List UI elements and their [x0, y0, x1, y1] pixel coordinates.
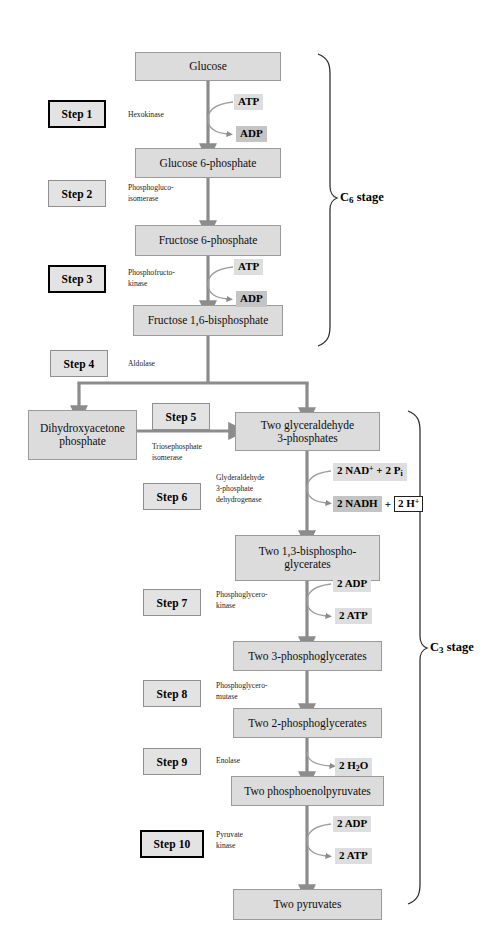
cofactor-chip-nad-pi: 2 NAD+ + 2 Pi — [333, 463, 407, 481]
step-1[interactable]: Step 1 — [48, 100, 106, 128]
cofactor-chip-2adp: 2 ADP — [333, 816, 371, 832]
enzyme-aldolase: Aldolase — [128, 359, 155, 370]
enzyme-phosphoglycerokinase: Phosphoglycero- kinase — [216, 590, 267, 612]
cofactor-chip-atp: ATP — [234, 259, 263, 275]
metabolite-glucose-6-phosphate[interactable]: Glucose 6-phosphate — [135, 148, 281, 178]
c6-prefix: C — [340, 190, 349, 204]
metabolite-glucose[interactable]: Glucose — [135, 52, 281, 81]
metabolite-dihydroxyacetone-phosphate[interactable]: Dihydroxyacetone phosphate — [28, 410, 137, 460]
enzyme-enolase: Enolase — [216, 756, 240, 767]
step-7[interactable]: Step 7 — [143, 589, 201, 616]
step-8[interactable]: Step 8 — [143, 680, 201, 707]
metabolite-fructose-1-6-bisphosphate[interactable]: Fructose 1,6-bisphosphate — [133, 305, 283, 336]
cofactor-chip-2atp: 2 ATP — [335, 608, 372, 624]
cofactor-chip-adp: ADP — [236, 126, 267, 142]
cofactor-step6-nadh-h: 2 NADH + 2 H+ — [333, 496, 423, 512]
cofactor-chip-2atp: 2 ATP — [335, 848, 372, 864]
stage-label-c3: C3 stage — [430, 640, 474, 655]
step-4[interactable]: Step 4 — [50, 350, 108, 377]
nad-label: NAD — [345, 464, 369, 476]
cofactor-step9-2h2o: 2 H2O — [335, 758, 372, 776]
enzyme-phosphoglyceromutase: Phosphoglycero- mutase — [216, 681, 267, 703]
step-10[interactable]: Step 10 — [140, 830, 204, 858]
cofactor-chip-water: 2 H2O — [335, 758, 372, 776]
metabolite-two-3-phosphoglycerates[interactable]: Two 3-phosphoglycerates — [233, 641, 382, 671]
water-count: 2 H — [339, 759, 356, 771]
cofactor-chip-nadh: 2 NADH — [333, 496, 382, 512]
glycolysis-diagram: Glucose Glucose 6-phosphate Fructose 6-p… — [0, 0, 502, 952]
cofactor-step6-nad-pi: 2 NAD+ + 2 Pi — [333, 463, 407, 481]
c3-prefix: C — [430, 640, 439, 654]
cofactor-plus-sign: + — [382, 499, 394, 510]
metabolite-two-glyceraldehyde-3-phosphates[interactable]: Two glyceraldehyde 3-phosphates — [235, 412, 380, 451]
cofactor-step3-adp: ADP — [236, 291, 267, 307]
cofactor-step7-2atp: 2 ATP — [335, 608, 372, 624]
c6-suffix: stage — [354, 190, 384, 204]
proton-charge: + — [415, 497, 420, 506]
enzyme-glyceraldehyde-3-phosphate-dehydrogenase: Glyderaldehyde 3-phosphate dehydrogenase — [216, 473, 265, 505]
cofactor-step3-atp: ATP — [234, 259, 263, 275]
c3-suffix: stage — [444, 640, 474, 654]
enzyme-phosphofructokinase: Phosphofructo- kinase — [128, 268, 175, 290]
metabolite-two-2-phosphoglycerates[interactable]: Two 2-phosphoglycerates — [233, 708, 382, 738]
nad-plus: + — [376, 464, 382, 476]
metabolite-two-phosphoenolpyruvates[interactable]: Two phosphoenolpyruvates — [231, 776, 384, 806]
cofactor-step1-atp: ATP — [234, 94, 263, 110]
cofactor-chip-atp: ATP — [234, 94, 263, 110]
step-6[interactable]: Step 6 — [143, 483, 201, 510]
cofactor-chip-2adp: 2 ADP — [333, 576, 371, 592]
enzyme-phosphoglucoisomerase: Phosphogluco- isomerase — [128, 183, 174, 205]
stage-label-c6: C6 stage — [340, 190, 384, 205]
step-2[interactable]: Step 2 — [48, 180, 106, 207]
cofactor-chip-proton: 2 H+ — [394, 496, 423, 512]
metabolite-two-1-3-bisphosphoglycerates[interactable]: Two 1,3-bisphospho- glycerates — [235, 535, 380, 581]
pi-sub: i — [400, 469, 402, 478]
enzyme-pyruvate-kinase: Pyruvate kinase — [216, 830, 243, 852]
step-9[interactable]: Step 9 — [143, 748, 201, 775]
metabolite-two-pyruvates[interactable]: Two pyruvates — [233, 889, 382, 920]
cofactor-step10-2atp: 2 ATP — [335, 848, 372, 864]
step-3[interactable]: Step 3 — [48, 265, 106, 293]
step-5[interactable]: Step 5 — [152, 403, 210, 430]
enzyme-triosephosphate-isomerase: Triosephosphate isomerase — [152, 442, 202, 464]
cofactor-step7-2adp: 2 ADP — [333, 576, 371, 592]
metabolite-fructose-6-phosphate[interactable]: Fructose 6-phosphate — [135, 225, 281, 256]
water-tail: O — [360, 759, 369, 771]
cofactor-step1-adp: ADP — [236, 126, 267, 142]
proton-label: 2 H — [398, 497, 415, 509]
cofactor-chip-adp: ADP — [236, 291, 267, 307]
nad-charge: + — [369, 464, 374, 473]
enzyme-hexokinase: Hexokinase — [128, 110, 164, 121]
cofactor-step10-2adp: 2 ADP — [333, 816, 371, 832]
